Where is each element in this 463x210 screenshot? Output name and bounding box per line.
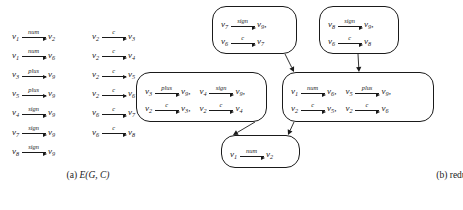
edge-source-vertex: v1 [230,149,237,160]
arrow-icon: sign [22,126,46,137]
node-edge-cell: v2cv5, [291,103,336,114]
edge-label: c [220,102,223,108]
labeled-edge: v6cv7 [221,36,264,47]
edge-source-vertex: v2 [92,88,99,99]
edge-label: plus [28,87,39,93]
edge-row: v5plusv9 [12,80,55,99]
edge-label: c [366,102,369,108]
edge-row: v2cv4 [92,41,135,60]
edge-source-vertex: v2 [291,103,298,114]
edge-target-vertex: v7 [257,36,264,47]
edge-target-vertex: v9 [48,146,55,157]
labeled-edge: v1numv2 [230,149,273,160]
labeled-edge: v5plusv9, [345,86,390,97]
edge-source-vertex: v1 [291,86,298,97]
labeled-edge: v8signv9, [328,19,373,30]
labeled-edge: v7signv9 [12,118,55,137]
arrow-icon: sign [231,19,255,30]
caption-panel-b: (b) reduced subsumption graph [352,170,463,180]
edge-label: sign [28,106,39,112]
arrow-icon: c [355,103,379,114]
edge-target-vertex: v7 [128,107,135,118]
edge-label: num [28,29,39,35]
edge-row: v4signv9 [12,99,55,118]
labeled-edge: v2cv3 [92,22,135,41]
edge-label: num [246,148,257,154]
edge-label: c [241,35,244,41]
edge-target-vertex: v6, [327,86,336,97]
edge-target-vertex: v2 [266,149,273,160]
edge-label: c [112,48,115,54]
edge-target-vertex: v3 [128,31,135,42]
node-edge-cell: v4signv9, [199,86,244,97]
node-edge-row: v1numv6,v5plusv9, [291,80,425,97]
edge-row: v6cv7 [92,99,135,118]
caption-b-prefix: (b) [436,170,447,180]
arrow-icon: num [22,30,46,41]
edge-source-vertex: v1 [12,50,19,61]
graph-node-plus-sign[interactable]: v3plusv9,v4signv9,v2cv3,v2cv4 [136,72,267,122]
arrow-icon: c [209,103,233,114]
labeled-edge: v2cv5, [291,103,336,114]
labeled-edge: v6cv7 [92,99,135,118]
edge-target-vertex: v2 [48,31,55,42]
connector-line [237,122,255,132]
arrow-icon: c [231,36,255,47]
node-edge-cell: v3plusv9, [145,86,190,97]
arrow-icon: sign [338,19,362,30]
edge-row: v8signv9 [12,137,55,156]
edge-row: v1numv2 [12,22,55,41]
arrow-icon: num [301,86,325,97]
node-edge-row: v6cv7 [221,30,288,47]
panel-b-subsumption-graph: v7signv9,v6cv7 v8signv9,v6cv8 v3plusv9,v… [176,0,463,210]
edge-source-vertex: v3 [12,69,19,80]
graph-node-v8-sign[interactable]: v8signv9,v6cv8 [319,6,399,54]
labeled-edge: v2cv6 [92,80,135,99]
node-edge-row: v3plusv9,v4signv9, [145,80,258,97]
edge-label: c [112,106,115,112]
connector-line [358,54,359,67]
edge-row: v7signv9 [12,118,55,137]
labeled-edge: v6cv8 [92,118,135,137]
node-edge-row: v2cv5,v2cv6 [291,97,425,114]
edge-source-vertex: v2 [199,103,206,114]
edge-source-vertex: v7 [221,19,228,30]
edge-source-vertex: v1 [12,31,19,42]
node-edge-row: v8signv9, [328,13,390,30]
node-edge-cell: v5plusv9, [345,86,390,97]
edge-source-vertex: v5 [345,86,352,97]
arrow-icon: c [301,103,325,114]
edge-label: sign [344,18,355,24]
labeled-edge: v2cv4 [199,103,242,114]
edge-target-vertex: v6 [48,50,55,61]
arrow-icon: num [240,149,264,160]
edge-label: c [112,125,115,131]
edge-label: plus [28,68,39,74]
edge-label: plus [362,85,373,91]
edge-label: c [165,102,168,108]
node-edge-cell: v8signv9, [328,19,373,30]
edge-source-vertex: v6 [92,127,99,138]
labeled-edge: v3plusv9 [12,60,55,79]
edge-target-vertex: v8 [128,127,135,138]
edge-target-vertex: v4 [128,50,135,61]
graph-node-num-plus[interactable]: v1numv6,v5plusv9,v2cv5,v2cv6 [282,72,434,122]
caption-b-text: reduced subsumption graph [450,170,463,180]
edge-label: c [112,29,115,35]
edge-target-vertex: v9 [48,107,55,118]
node-edge-cell: v1numv6, [291,86,336,97]
edge-target-vertex: v9 [48,69,55,80]
node-edge-cell: v1numv2 [230,149,273,160]
graph-node-num-root[interactable]: v1numv2 [221,135,300,168]
arrow-icon: plus [22,69,46,80]
arrow-icon: c [102,107,126,118]
edge-target-vertex: v4 [236,103,243,114]
node-edge-row: v1numv2 [230,143,291,160]
edge-target-vertex: v8 [364,36,371,47]
graph-node-v7-sign[interactable]: v7signv9,v6cv7 [212,6,297,54]
labeled-edge: v7signv9, [221,19,266,30]
arrow-icon: sign [22,107,46,118]
edge-row: v1numv6 [12,41,55,60]
edge-label: c [112,87,115,93]
edge-row: v2cv3 [92,22,135,41]
